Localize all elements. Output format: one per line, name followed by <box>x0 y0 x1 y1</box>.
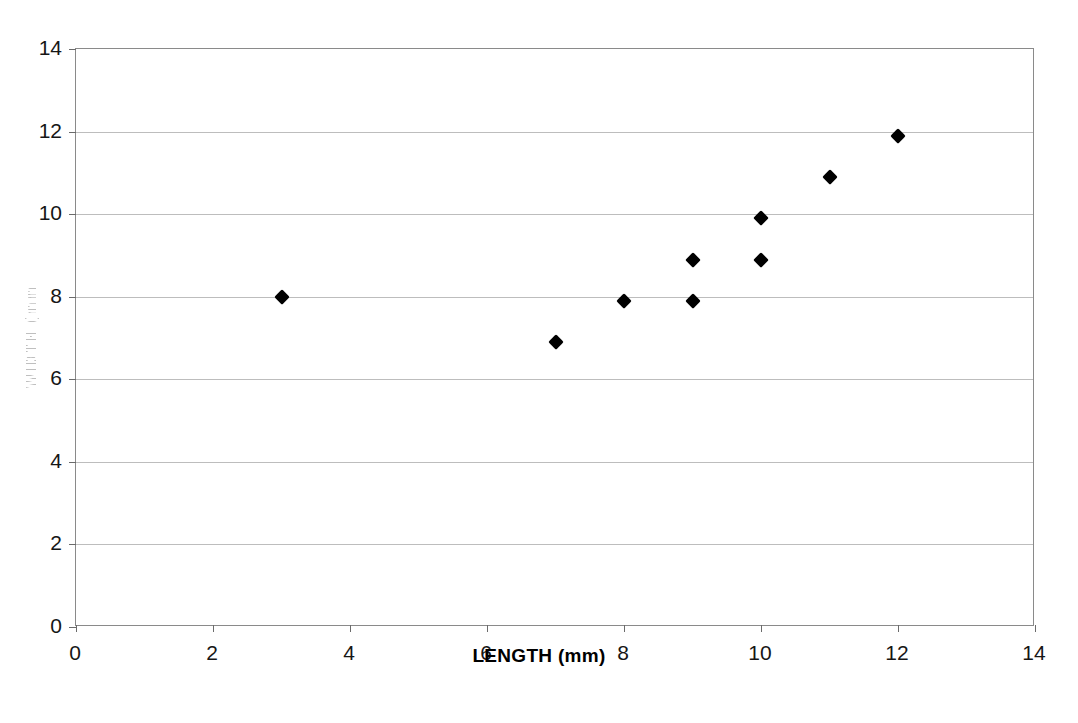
y-tick-mark <box>69 462 76 463</box>
y-tick-label: 4 <box>50 450 62 471</box>
gridline <box>76 544 1033 545</box>
y-tick-label: 0 <box>50 615 62 636</box>
data-point <box>685 252 701 268</box>
y-tick-mark <box>69 627 76 628</box>
data-point <box>890 128 906 144</box>
gridline <box>76 214 1033 215</box>
x-tick-mark <box>1035 625 1036 632</box>
x-tick-label: 2 <box>206 642 218 663</box>
y-tick-mark <box>69 297 76 298</box>
y-tick-mark <box>69 379 76 380</box>
scatter-chart: 02468101214 WIDTH (mm) 02468101214 LENGT… <box>0 0 1078 723</box>
gridline <box>76 462 1033 463</box>
data-point <box>274 289 290 305</box>
y-tick-label: 14 <box>39 37 62 58</box>
y-tick-label: 2 <box>50 532 62 553</box>
gridline <box>76 379 1033 380</box>
x-tick-mark <box>761 625 762 632</box>
y-tick-mark <box>69 214 76 215</box>
x-tick-mark <box>487 625 488 632</box>
gridline <box>76 132 1033 133</box>
x-axis-title: LENGTH (mm) <box>472 645 605 667</box>
data-point <box>616 293 632 309</box>
y-tick-label: 6 <box>50 367 62 388</box>
plot-area <box>75 48 1034 626</box>
y-tick-label: 12 <box>39 120 62 141</box>
data-point <box>548 334 564 350</box>
x-tick-label: 12 <box>885 642 908 663</box>
gridline <box>76 297 1033 298</box>
y-tick-label: 8 <box>50 285 62 306</box>
y-tick-mark <box>69 544 76 545</box>
y-tick-label: 10 <box>39 202 62 223</box>
y-axis-title: WIDTH (mm) <box>22 288 42 388</box>
data-point <box>685 293 701 309</box>
y-tick-mark <box>69 49 76 50</box>
x-tick-label: 14 <box>1022 642 1045 663</box>
x-tick-label: 10 <box>748 642 771 663</box>
x-tick-mark <box>624 625 625 632</box>
x-tick-mark <box>350 625 351 632</box>
data-point <box>753 252 769 268</box>
x-tick-mark <box>213 625 214 632</box>
x-tick-mark <box>898 625 899 632</box>
data-point <box>822 169 838 185</box>
data-point <box>753 210 769 226</box>
x-tick-label: 0 <box>69 642 81 663</box>
x-tick-label: 4 <box>343 642 355 663</box>
y-tick-mark <box>69 132 76 133</box>
x-tick-label: 8 <box>617 642 629 663</box>
x-tick-mark <box>76 625 77 632</box>
